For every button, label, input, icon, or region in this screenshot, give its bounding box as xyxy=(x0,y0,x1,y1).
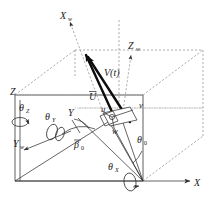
label-theta-y: θ Y xyxy=(45,111,56,123)
label-yw-subscript: w xyxy=(20,144,24,150)
label-theta-0: θ 0 xyxy=(137,134,147,146)
label-zw-main: Z xyxy=(128,40,134,51)
label-xw: X w xyxy=(59,10,72,22)
label-theta-x-main: θ xyxy=(108,161,113,172)
theta-x-rotation-arrow xyxy=(133,186,139,187)
label-mean-flow-text: U xyxy=(89,91,97,102)
coordinate-system-diagram: X w Z w Y w Z X Y V(t) U u v w xyxy=(0,0,217,198)
label-xw-main: X xyxy=(59,10,67,21)
label-zw-subscript: w xyxy=(136,46,140,52)
label-component-v: v xyxy=(139,100,143,110)
label-theta-z-subscript: Z xyxy=(26,108,30,114)
label-theta-x-subscript: X xyxy=(114,167,119,173)
label-component-w: w xyxy=(112,126,118,136)
label-theta-y-main: θ xyxy=(45,111,50,122)
box-wireframe xyxy=(15,20,203,181)
label-y: Y xyxy=(68,107,75,118)
label-yw: Y w xyxy=(13,138,24,150)
radial-line-a xyxy=(15,115,119,181)
label-velocity: V(t) xyxy=(104,67,120,79)
label-theta-y-subscript: Y xyxy=(52,117,56,123)
label-zw: Z w xyxy=(128,40,140,52)
label-theta-z: θ Z xyxy=(19,102,30,114)
figure-canvas: X w Z w Y w Z X Y V(t) U u v w xyxy=(0,0,217,198)
component-plane-patch xyxy=(100,107,137,128)
velocity-vector-v xyxy=(86,55,113,114)
label-component-u: u xyxy=(101,104,105,114)
label-xw-subscript: w xyxy=(68,16,72,22)
uvw-parallelogram xyxy=(103,107,137,126)
axis-lines xyxy=(15,22,190,181)
label-beta-0-main: β xyxy=(73,139,79,150)
label-x: X xyxy=(193,177,201,188)
label-beta-0: β 0 xyxy=(73,139,84,151)
label-theta-0-subscript: 0 xyxy=(144,140,147,146)
label-z: Z xyxy=(10,86,16,97)
theta-y-rotation-ellipse-2 xyxy=(54,126,66,142)
label-mean-flow: U xyxy=(89,91,97,102)
label-beta-0-subscript: 0 xyxy=(81,145,84,151)
label-theta-x: θ X xyxy=(108,161,119,173)
label-yw-main: Y xyxy=(13,138,20,149)
label-theta-z-main: θ xyxy=(19,102,24,113)
label-theta-0-main: θ xyxy=(137,134,142,145)
theta-x-rotation-ellipse xyxy=(123,172,137,191)
